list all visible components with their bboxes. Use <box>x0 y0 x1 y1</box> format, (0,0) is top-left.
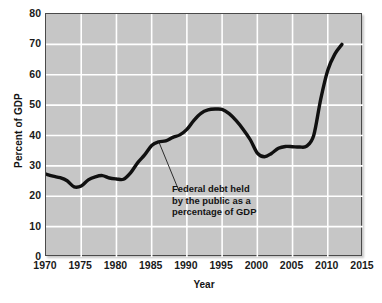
annotation-line-3: percentage of GDP <box>172 206 256 218</box>
plot-svg <box>46 14 363 257</box>
annotation-line-1: Federal debt held <box>172 183 256 195</box>
x-axis-tick-label: 1980 <box>95 259 135 271</box>
y-axis-tick-label: 10 <box>1 220 41 232</box>
y-axis-tick-label: 30 <box>1 159 41 171</box>
y-axis-tick-label: 80 <box>1 7 41 19</box>
y-axis-tick-label: 70 <box>1 37 41 49</box>
annotation-callout: Federal debt held by the public as a per… <box>172 183 256 218</box>
x-axis-tick-label: 2015 <box>342 259 382 271</box>
x-axis-tick-label: 2010 <box>307 259 347 271</box>
y-axis-tick-label: 40 <box>1 129 41 141</box>
x-axis-tick-labels: 1970197519801985199019952000200520102015 <box>0 259 382 275</box>
chart-figure: Percent of GDP 01020304050607080 1970197… <box>0 0 382 303</box>
x-axis-tick-label: 1970 <box>25 259 65 271</box>
annotation-line-2: by the public as a <box>172 195 256 207</box>
x-axis-tick-label: 1995 <box>201 259 241 271</box>
y-axis-tick-labels: 01020304050607080 <box>0 0 41 303</box>
x-axis-tick-label: 1975 <box>60 259 100 271</box>
x-axis-title: Year <box>45 279 363 290</box>
x-axis-tick-label: 2000 <box>236 259 276 271</box>
plot-area <box>45 13 362 256</box>
x-axis-tick-label: 1990 <box>166 259 206 271</box>
y-axis-tick-label: 50 <box>1 98 41 110</box>
y-axis-tick-label: 60 <box>1 68 41 80</box>
y-axis-tick-label: 20 <box>1 189 41 201</box>
x-axis-tick-label: 1985 <box>131 259 171 271</box>
x-axis-tick-label: 2005 <box>272 259 312 271</box>
